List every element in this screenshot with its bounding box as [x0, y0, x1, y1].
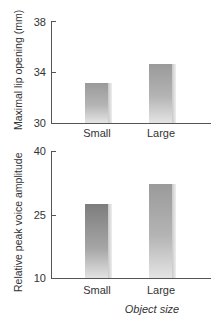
y-tick-label: 34 — [22, 66, 46, 78]
bar-small — [85, 83, 108, 123]
lip-opening-chart: Maximal lip opening (mm) 38 34 30 Small … — [0, 0, 221, 140]
x-category-label: Large — [136, 127, 186, 139]
x-axis — [51, 123, 211, 124]
y-tick — [51, 72, 56, 73]
x-category-label: Small — [72, 127, 122, 139]
x-category-label: Small — [72, 284, 122, 296]
y-tick-label: 38 — [22, 16, 46, 28]
bar-small — [85, 204, 108, 278]
y-tick — [51, 215, 56, 216]
x-category-label: Large — [136, 284, 186, 296]
voice-amplitude-chart: Relative peak voice amplitude 40 25 10 S… — [0, 140, 221, 323]
bar-large — [149, 64, 172, 123]
y-tick-label: 25 — [22, 209, 46, 221]
y-tick-label: 10 — [22, 272, 46, 284]
x-axis-title: Object size — [92, 303, 212, 315]
bar-large — [149, 184, 172, 278]
y-tick-label: 40 — [22, 145, 46, 157]
x-axis — [51, 278, 211, 279]
y-tick — [51, 151, 56, 152]
y-tick — [51, 21, 56, 22]
y-tick-label: 30 — [22, 117, 46, 129]
